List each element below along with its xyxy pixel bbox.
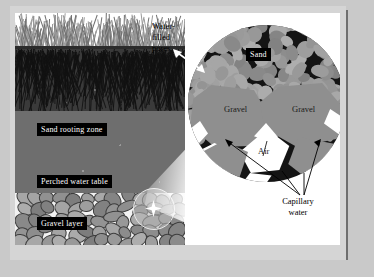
label-sand: Sand — [246, 48, 271, 61]
label-water-filled-pores: Water- filled pores — [152, 21, 175, 54]
label-gravel-right: Gravel — [292, 104, 315, 114]
capillary-water-line-2: water — [267, 207, 329, 218]
label-gravel-layer: Gravel layer — [37, 217, 87, 230]
slide-background: Sand rooting zone Perched water table Gr… — [0, 0, 374, 277]
figure-plate: Sand rooting zone Perched water table Gr… — [15, 13, 340, 245]
label-air: Air — [258, 146, 269, 156]
capillary-water-meniscus-bottom — [244, 173, 274, 182]
root-zone-layer — [15, 49, 185, 115]
label-gravel-left: Gravel — [224, 104, 247, 114]
callout-magnifier-circle — [133, 188, 175, 230]
label-perched-water-table: Perched water table — [37, 175, 112, 188]
capillary-water-star-icon — [145, 200, 162, 217]
grass-blade — [33, 22, 34, 49]
water-filled-pores-line-2: filled — [152, 32, 175, 43]
water-filled-pores-line-1: Water- — [152, 21, 175, 32]
label-sand-rooting-zone: Sand rooting zone — [37, 123, 107, 136]
capillary-water-line-1: Capillary — [267, 196, 329, 207]
label-capillary-water: Capillary water — [267, 196, 329, 218]
water-filled-pores-line-3: pores — [152, 43, 175, 54]
